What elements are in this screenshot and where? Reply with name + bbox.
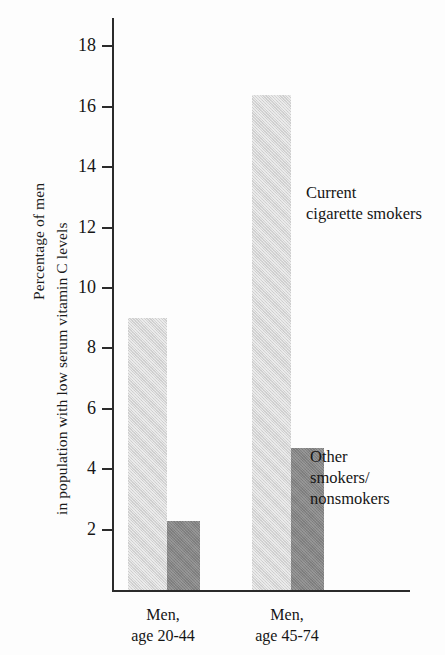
y-axis-line (112, 18, 114, 592)
y-axis-tick-label-12: 12 (56, 218, 96, 236)
y-axis-tick-label-16: 16 (56, 97, 96, 115)
y-axis-tick-14 (102, 166, 113, 168)
y-axis-tick-6 (102, 408, 113, 410)
y-axis-tick-8 (102, 347, 113, 349)
plot-area: 24681012141618 Current cigarette smokers… (0, 0, 445, 655)
x-axis-line (112, 590, 410, 592)
bar-group-1-series-0 (252, 95, 291, 590)
y-axis-tick-2 (102, 529, 113, 531)
y-axis-tick-16 (102, 106, 113, 108)
annotation-current-cigarette-smokers: Current cigarette smokers (306, 182, 422, 224)
x-axis-category-label-1: Men, age 45-74 (232, 604, 342, 646)
y-axis-tick-label-8: 8 (56, 338, 96, 356)
y-axis-tick-label-2: 2 (56, 520, 96, 538)
x-axis-category-label-0: Men, age 20-44 (108, 604, 218, 646)
y-axis-tick-label-14: 14 (56, 157, 96, 175)
annotation-other-smokers-nonsmokers: Other smokers/ nonsmokers (310, 446, 390, 509)
bar-group-0-series-0 (128, 318, 167, 590)
y-axis-tick-12 (102, 227, 113, 229)
bar-group-0-series-1 (167, 521, 200, 590)
y-axis-tick-10 (102, 287, 113, 289)
y-axis-tick-4 (102, 468, 113, 470)
y-axis-tick-18 (102, 45, 113, 47)
y-axis-tick-label-4: 4 (56, 459, 96, 477)
y-axis-tick-label-18: 18 (56, 36, 96, 54)
y-axis-tick-label-10: 10 (56, 278, 96, 296)
bar-chart-figure: Percentage of men in population with low… (0, 0, 445, 655)
y-axis-tick-label-6: 6 (56, 399, 96, 417)
